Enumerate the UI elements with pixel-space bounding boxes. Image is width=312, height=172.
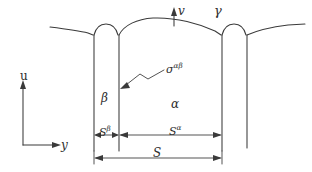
surface-profile-gamma-crown	[222, 24, 246, 35]
dim-salpha-superscript: α	[177, 123, 182, 132]
dim-s-arrowhead-left	[94, 155, 103, 161]
dim-salpha-label: Sα	[169, 124, 181, 137]
normal-vector-v-label: v	[178, 5, 185, 17]
interface-tension-superscript: αβ	[174, 61, 183, 70]
dim-sbeta-arrowhead-right	[112, 132, 119, 138]
axis-y-label: y	[61, 139, 68, 151]
dim-salpha-arrowhead-left	[119, 132, 128, 138]
dim-salpha-arrowhead-right	[213, 132, 222, 138]
phase-beta-label: β	[101, 92, 108, 104]
surface-profile-beta-crown	[94, 24, 118, 35]
dim-s-arrowhead-right	[213, 155, 222, 161]
phase-gamma-label: γ	[214, 4, 222, 17]
grain-boundary-groove-diagram: u y v γ β α σαβ Sβ Sα S	[0, 0, 312, 172]
dim-sbeta-superscript: β	[107, 124, 111, 133]
normal-vector-v-arrowhead	[171, 7, 177, 16]
dim-sbeta-label: Sβ	[99, 125, 111, 138]
interface-tension-label: σαβ	[166, 62, 183, 75]
phase-alpha-label: α	[171, 98, 179, 110]
interface-tension-symbol: σ	[166, 63, 174, 76]
axis-u-label: u	[20, 70, 28, 82]
sigma-leader-zigzag	[126, 70, 164, 85]
dim-s-label: S	[153, 147, 161, 159]
surface-profile-left-outer	[50, 27, 93, 35]
axis-y-arrowhead	[52, 142, 61, 148]
dim-salpha-symbol: S	[169, 125, 177, 138]
dim-sbeta-symbol: S	[99, 126, 107, 139]
surface-profile-alpha-crown	[119, 18, 221, 35]
surface-profile-right-outer	[247, 24, 305, 35]
